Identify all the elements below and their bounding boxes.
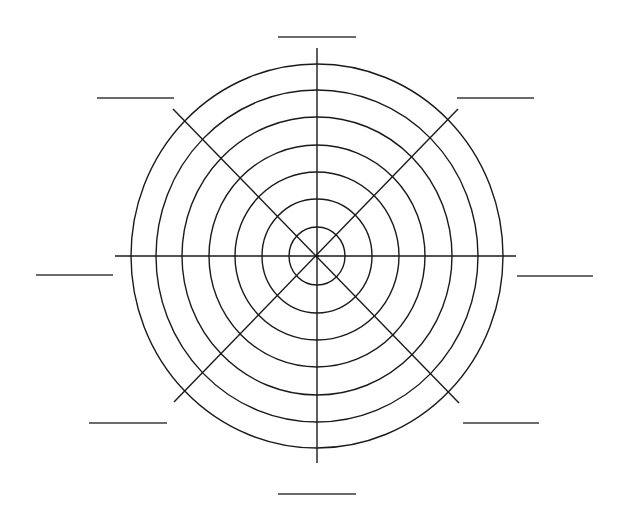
diagram-canvas [0, 0, 622, 521]
label-blanks-group [36, 37, 593, 494]
polar-web-diagram [0, 0, 622, 521]
center-point [315, 254, 319, 258]
